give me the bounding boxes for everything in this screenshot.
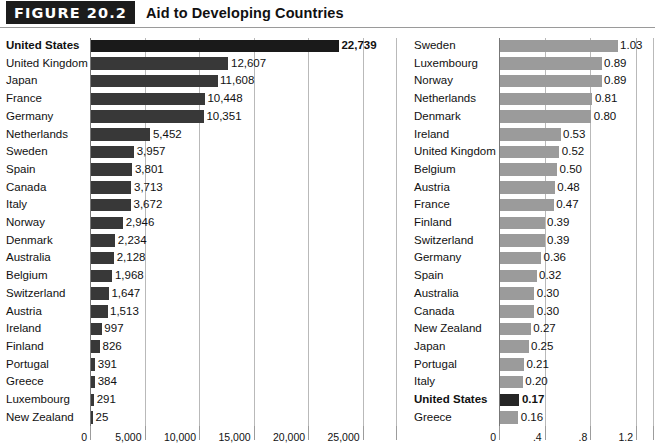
bar-row: Spain3,801	[0, 162, 400, 180]
bar-category-label: Switzerland	[414, 233, 496, 251]
bar-category-label: France	[414, 197, 496, 215]
tick-mark	[653, 426, 654, 440]
bar-row: Luxembourg291	[0, 392, 400, 410]
bar-value-label: 384	[98, 374, 117, 392]
bar-category-label: Greece	[414, 410, 496, 428]
bar-value-label: 0.25	[531, 339, 553, 357]
bar	[500, 181, 555, 194]
bar-category-label: United States	[6, 38, 88, 56]
bar-row: Austria0.48	[408, 180, 655, 198]
bar-value-label: 0.32	[539, 268, 561, 286]
tick-mark	[199, 426, 200, 440]
bar-category-label: Sweden	[414, 38, 496, 56]
bar	[91, 234, 115, 247]
bar-row: Greece384	[0, 374, 400, 392]
bar-category-label: Austria	[414, 180, 496, 198]
bar	[91, 110, 204, 123]
bar-category-label: Switzerland	[6, 286, 88, 304]
bar-value-label: 10,351	[206, 109, 241, 127]
bar-category-label: Germany	[414, 250, 496, 268]
bar	[500, 57, 602, 70]
bar	[91, 128, 150, 141]
figure-number-label: FIGURE 20.2	[14, 5, 127, 21]
bar	[91, 411, 93, 424]
bar-value-label: 1,513	[110, 304, 139, 322]
bar	[500, 376, 523, 389]
bar-row: Australia2,128	[0, 250, 400, 268]
bar-value-label: 0.80	[594, 109, 616, 127]
bar-category-label: Finland	[414, 215, 496, 233]
bar-category-label: Spain	[414, 268, 496, 286]
bar-value-label: 0.39	[547, 233, 569, 251]
bar-row: Netherlands0.81	[408, 91, 655, 109]
bar-category-label: Portugal	[414, 357, 496, 375]
bar-value-label: 0.48	[557, 180, 579, 198]
tick-mark	[90, 426, 91, 440]
bar-value-label: 1.03	[620, 38, 642, 56]
bar-row: Germany0.36	[408, 250, 655, 268]
bar	[91, 376, 95, 389]
bar	[500, 199, 554, 212]
bar-row: France10,448	[0, 91, 400, 109]
chart-aid-percent-gni: Sweden1.03Luxembourg0.89Norway0.89Nether…	[408, 33, 655, 427]
bar	[500, 270, 537, 283]
bar-row: United States0.17	[408, 392, 655, 410]
bar-category-label: New Zealand	[6, 410, 88, 428]
bar-value-label: 10,448	[207, 91, 242, 109]
bar-value-label: 0.81	[595, 91, 617, 109]
bar-value-label: 2,946	[126, 215, 155, 233]
bar-row: Netherlands5,452	[0, 127, 400, 145]
bar-row: Switzerland0.39	[408, 233, 655, 251]
bar-category-label: Norway	[6, 215, 88, 233]
bar	[91, 93, 205, 106]
bar	[91, 323, 102, 336]
axis-tick-label: 0	[490, 431, 496, 443]
tick-mark	[590, 426, 591, 440]
bar-row: Luxembourg0.89	[408, 56, 655, 74]
bar-category-label: Australia	[6, 250, 88, 268]
bar-value-label: 25	[96, 410, 109, 428]
header-divider	[0, 27, 655, 28]
bar-category-label: Belgium	[414, 162, 496, 180]
bar-row: Canada3,713	[0, 180, 400, 198]
bar-category-label: Germany	[6, 109, 88, 127]
bar	[500, 234, 545, 247]
bar-value-label: 3,672	[134, 197, 163, 215]
bar-value-label: 1,647	[111, 286, 140, 304]
axis-tick-label: 0	[81, 431, 87, 443]
bar	[500, 110, 591, 123]
bar	[91, 252, 114, 265]
bar-value-label: 5,452	[153, 127, 182, 145]
bar	[500, 217, 545, 230]
bar-category-label: Ireland	[414, 127, 496, 145]
bar-value-label: 0.17	[522, 392, 544, 410]
bar	[500, 75, 602, 88]
bar-category-label: Netherlands	[414, 91, 496, 109]
tick-mark	[499, 426, 500, 440]
bar-row: Ireland0.53	[408, 127, 655, 145]
bar-category-label: Ireland	[6, 321, 88, 339]
bar-category-label: Austria	[6, 304, 88, 322]
bar-category-label: Denmark	[414, 109, 496, 127]
bar-row: United States22,739	[0, 38, 400, 56]
bar-value-label: 0.16	[521, 410, 543, 428]
bar	[500, 394, 519, 407]
plot-area-right: Sweden1.03Luxembourg0.89Norway0.89Nether…	[408, 33, 655, 427]
bar-row: Australia0.30	[408, 286, 655, 304]
axis-tick-label: .8	[579, 431, 588, 443]
bar	[91, 270, 112, 283]
bar-row: Germany10,351	[0, 109, 400, 127]
tick-mark	[545, 426, 546, 440]
tick-mark	[363, 426, 364, 440]
bar-row: New Zealand0.27	[408, 321, 655, 339]
bar-row: Austria1,513	[0, 304, 400, 322]
bar-row: France0.47	[408, 197, 655, 215]
bar	[91, 163, 132, 176]
bar-value-label: 0.50	[560, 162, 582, 180]
bar-value-label: 11,608	[220, 73, 254, 91]
bar	[500, 411, 518, 424]
bar	[91, 75, 218, 88]
bar-row: Norway0.89	[408, 73, 655, 91]
bar-category-label: Japan	[414, 339, 496, 357]
bar-row: Greece0.16	[408, 410, 655, 428]
